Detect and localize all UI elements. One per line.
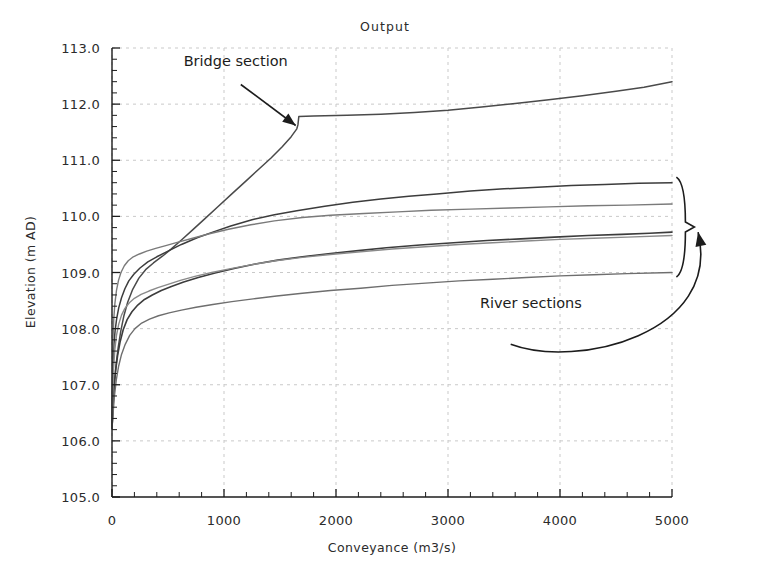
bridge-section-label: Bridge section [184,53,288,69]
x-tick-label: 2000 [319,513,353,528]
y-tick-label: 107.0 [61,378,100,393]
y-tick-label: 108.0 [61,322,100,337]
x-tick-label: 5000 [655,513,689,528]
y-axis-title: Elevation (m AD) [23,216,38,329]
river-sections-label: River sections [480,295,582,311]
chart-title: Output [360,19,410,34]
y-tick-label: 113.0 [61,41,100,56]
x-tick-label: 4000 [543,513,577,528]
y-tick-label: 105.0 [61,490,100,505]
conveyance-elevation-chart: 010002000300040005000 105.0106.0107.0108… [0,0,758,573]
chart-figure: 010002000300040005000 105.0106.0107.0108… [0,0,758,573]
y-tick-label: 112.0 [61,97,100,112]
x-tick-label: 0 [108,513,117,528]
x-axis-title: Conveyance (m3/s) [328,540,456,555]
x-tick-label: 1000 [207,513,241,528]
x-tick-label: 3000 [431,513,465,528]
y-tick-label: 106.0 [61,434,100,449]
y-tick-label: 110.0 [61,209,100,224]
y-tick-label: 109.0 [61,266,100,281]
y-axis-tick-labels: 105.0106.0107.0108.0109.0110.0111.0112.0… [61,41,100,505]
y-tick-label: 111.0 [61,153,100,168]
